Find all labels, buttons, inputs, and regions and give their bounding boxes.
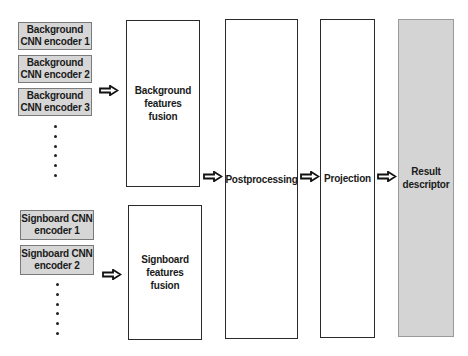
postprocessing-stage: Postprocessing [225,19,298,339]
encoder-label: Signboard CNN encoder 1 [21,213,93,237]
ellipsis-dot [56,322,59,325]
arrow-right-icon [203,171,223,182]
encoder-label: Background CNN encoder 2 [19,57,91,81]
ellipsis-dot [56,332,59,335]
background-cnn-encoder-1: Background CNN encoder 1 [18,22,92,50]
projection-stage: Projection [320,19,375,338]
result-label: Result descriptor [401,165,451,191]
signboard-cnn-encoder-2: Signboard CNN encoder 2 [20,245,94,275]
background-cnn-encoder-3: Background CNN encoder 3 [18,88,92,116]
stage-label: Projection [324,172,371,185]
ellipsis-dot [54,154,57,157]
signboard-features-fusion: Signboard features fusion [128,205,202,340]
ellipsis-dot [54,125,57,128]
stage-label: Signboard features fusion [133,253,197,292]
ellipsis-dot [54,145,57,148]
ellipsis-dot [54,164,57,167]
ellipsis-dot [54,174,57,177]
ellipsis-dot [56,303,59,306]
background-cnn-encoder-2: Background CNN encoder 2 [18,55,92,83]
encoder-label: Background CNN encoder 3 [19,90,91,114]
ellipsis-dot [54,135,57,138]
ellipsis-dot [56,293,59,296]
encoder-label: Background CNN encoder 1 [19,24,91,48]
arrow-right-icon [102,269,122,280]
arrow-right-icon [99,85,119,96]
background-features-fusion: Background features fusion [126,20,200,187]
stage-label: Postprocessing [225,173,297,186]
stage-label: Background features fusion [131,84,195,123]
arrow-right-icon [300,171,320,182]
signboard-cnn-encoder-1: Signboard CNN encoder 1 [20,210,94,240]
ellipsis-dot [56,312,59,315]
result-descriptor: Result descriptor [398,19,454,337]
arrow-right-icon [377,171,397,182]
ellipsis-dot [56,283,59,286]
encoder-label: Signboard CNN encoder 2 [21,248,93,272]
